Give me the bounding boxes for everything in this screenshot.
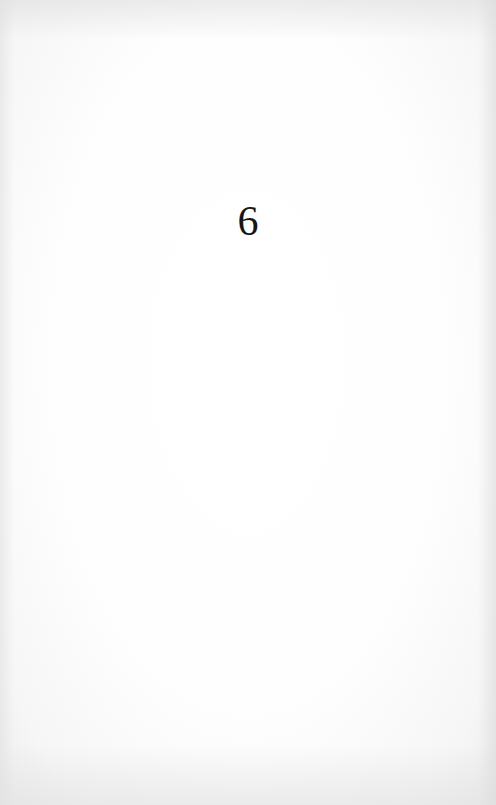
chapter-number: 6 [0,196,496,246]
page-edge-shadow-left [0,0,14,805]
page-edge-shadow-right [478,0,496,805]
page-edge-shadow-bottom [0,745,496,805]
page-edge-shadow-top [0,0,496,40]
book-page: 6 [0,0,496,805]
